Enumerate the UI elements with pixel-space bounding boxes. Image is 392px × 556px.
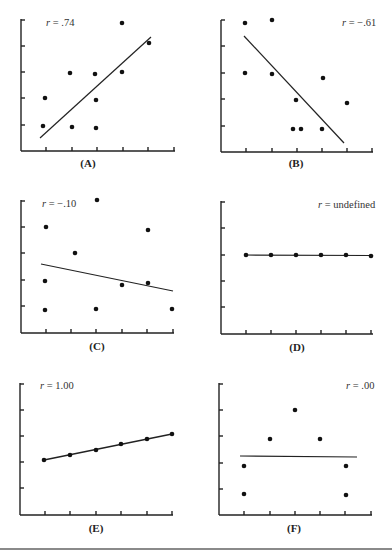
chart-panel-c: r = −.10 (C) — [0, 185, 196, 367]
chart-panel-f: r = .00 (F) — [196, 370, 392, 552]
panel-caption-a: (A) — [58, 157, 118, 169]
panel-caption-d: (D) — [267, 341, 327, 353]
panel-caption-f: (F) — [264, 522, 324, 534]
chart-panel-b: r = −.61 (B) — [196, 0, 392, 182]
correlation-label-c: r = −.10 — [42, 198, 76, 209]
correlation-label-d: r = undefined — [318, 199, 375, 210]
correlation-label-a: r = .74 — [46, 17, 74, 28]
panel-caption-c: (C) — [67, 340, 127, 352]
bottom-rule-divider — [0, 548, 392, 550]
correlation-label-f: r = .00 — [346, 380, 374, 391]
correlation-label-b: r = −.61 — [342, 17, 376, 28]
panel-caption-e: (E) — [66, 522, 126, 534]
chart-panel-a: r = .74 (A) — [0, 0, 196, 182]
scatter-plot-a — [0, 0, 196, 182]
panel-caption-b: (B) — [266, 157, 326, 169]
chart-panel-e: r = 1.00 (E) — [0, 370, 196, 552]
chart-panel-d: r = undefined (D) — [196, 185, 392, 367]
correlation-label-e: r = 1.00 — [40, 380, 74, 391]
line-plot-d — [196, 185, 392, 367]
